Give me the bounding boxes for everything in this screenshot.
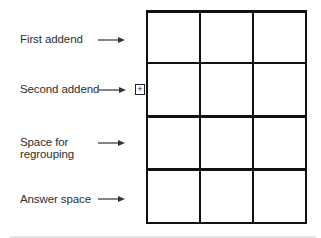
grid-row-divider bbox=[146, 62, 307, 64]
label-regrouping: regrouping bbox=[20, 148, 74, 161]
arrow-right-icon bbox=[98, 36, 126, 44]
grid-row-divider-thick bbox=[146, 168, 307, 171]
arrow-right-icon bbox=[99, 86, 127, 94]
grid-column-divider bbox=[199, 10, 201, 224]
arrow-right-icon bbox=[98, 195, 126, 203]
grid-row-divider-thick bbox=[146, 115, 307, 118]
arrow-right-icon bbox=[98, 139, 126, 147]
grid-top-border bbox=[146, 10, 307, 13]
label-answer-space: Answer space bbox=[20, 193, 91, 206]
grid-column-divider bbox=[252, 10, 254, 224]
label-second-addend: Second addend bbox=[20, 83, 99, 96]
grid-right-border bbox=[305, 10, 307, 224]
plus-operator-icon: + bbox=[135, 84, 145, 95]
footer-divider bbox=[10, 236, 316, 238]
place-value-grid bbox=[146, 10, 307, 224]
grid-bottom-border bbox=[146, 222, 307, 224]
label-first-addend: First addend bbox=[20, 33, 83, 46]
grid-left-border bbox=[146, 10, 148, 224]
